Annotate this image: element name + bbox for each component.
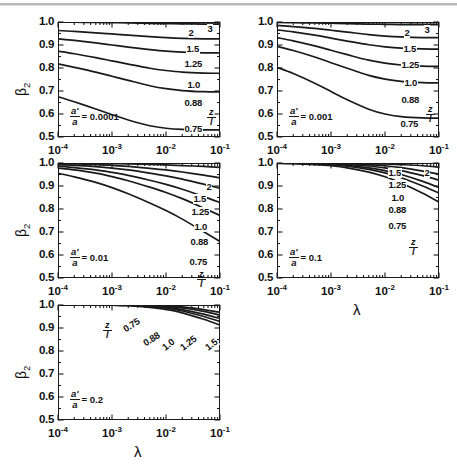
- x-tick-label: 10-1: [423, 284, 455, 297]
- y-tick-label: 0.8: [241, 203, 273, 215]
- y-tick-label: 0.6: [22, 391, 54, 403]
- y-tick-label: 0.5: [22, 131, 54, 143]
- curve-label-1p25: 1.25: [401, 60, 420, 70]
- y-tick-label: 1.0: [241, 16, 273, 28]
- curve-1p5: [277, 25, 439, 37]
- scan-artifact-line-secondary: [0, 5, 457, 6]
- z-over-l-label: zl: [103, 321, 112, 340]
- y-tick-label: 1.0: [22, 16, 54, 28]
- y-tick-label: 0.9: [241, 39, 273, 51]
- y-tick-label: 0.7: [241, 85, 273, 97]
- y-axis-title: β2: [14, 82, 31, 95]
- y-tick-label: 0.8: [22, 203, 54, 215]
- curve-1p5: [58, 31, 220, 39]
- curve-label-3: 3: [424, 25, 430, 35]
- x-axis-title: λ: [134, 444, 142, 459]
- x-tick-label: 10-1: [204, 284, 236, 297]
- curve-label-0p75: 0.75: [184, 124, 203, 134]
- y-tick-label: 0.5: [241, 272, 273, 284]
- curve-label-1p0: 1.0: [391, 193, 405, 203]
- x-tick-label: 10-2: [369, 284, 401, 297]
- y-tick-label: 0.5: [22, 414, 54, 426]
- y-tick-label: 1.0: [22, 299, 54, 311]
- x-tick-label: 10-4: [261, 143, 293, 156]
- curve-label-3: 3: [207, 24, 213, 34]
- curve-label-0p75: 0.75: [400, 119, 419, 129]
- x-tick-label: 10-1: [204, 426, 236, 439]
- y-axis-title: β2: [14, 365, 31, 378]
- curve-label-1p0: 1.0: [187, 80, 201, 90]
- param-fraction: a'a: [289, 106, 299, 127]
- y-axis-title: β2: [14, 223, 31, 236]
- curve-label-2: 2: [206, 182, 212, 192]
- curve-label-1p25: 1.25: [191, 207, 210, 217]
- curve-label-2: 2: [188, 28, 194, 38]
- curve-label-2: 2: [404, 28, 410, 38]
- y-tick-label: 0.9: [241, 180, 273, 192]
- x-tick-label: 10-3: [315, 143, 347, 156]
- param-fraction: a'a: [289, 247, 299, 268]
- y-tick-label: 0.5: [22, 272, 54, 284]
- curve-label-1p5: 1.5: [186, 44, 200, 54]
- curve-label-1p5: 1.5: [403, 44, 417, 54]
- y-tick-label: 0.8: [241, 62, 273, 74]
- y-tick-label: 0.8: [22, 345, 54, 357]
- x-tick-label: 10-3: [96, 426, 128, 439]
- y-tick-label: 1.0: [241, 157, 273, 169]
- curve-label-1p25: 1.25: [184, 59, 203, 69]
- param-fraction: a'a: [70, 389, 80, 410]
- x-tick-label: 10-2: [150, 284, 182, 297]
- y-tick-label: 0.6: [22, 108, 54, 120]
- param-value: = 0.001: [301, 112, 333, 122]
- x-tick-label: 10-4: [42, 284, 74, 297]
- z-over-l-label: zl: [409, 238, 418, 257]
- y-tick-label: 0.5: [241, 131, 273, 143]
- curve-label-0p75: 0.75: [189, 257, 208, 267]
- y-tick-label: 1.0: [22, 157, 54, 169]
- z-over-l-label: zl: [197, 270, 206, 289]
- x-tick-label: 10-3: [315, 284, 347, 297]
- y-tick-label: 0.6: [241, 108, 273, 120]
- y-tick-label: 0.6: [241, 249, 273, 261]
- y-tick-label: 0.7: [241, 226, 273, 238]
- curve-label-0p88: 0.88: [388, 205, 407, 215]
- curve-label-1p5: 1.5: [193, 194, 207, 204]
- curve-label-0p88: 0.88: [184, 98, 203, 108]
- panel-annotation: a'a = 0.1: [289, 247, 322, 268]
- param-value: = 0.1: [301, 253, 322, 263]
- param-value: = 0.0001: [82, 112, 119, 122]
- y-tick-label: 0.8: [22, 62, 54, 74]
- z-over-l-label: zl: [207, 108, 216, 127]
- param-fraction: a'a: [70, 106, 80, 127]
- panel-annotation: a'a = 0.0001: [70, 106, 119, 127]
- param-value: = 0.2: [82, 395, 103, 405]
- param-fraction: a'a: [70, 247, 80, 268]
- curve-label-0p75: 0.75: [388, 221, 407, 231]
- x-tick-label: 10-3: [96, 284, 128, 297]
- curve-1p0: [277, 163, 439, 188]
- curve-label-1p0: 1.0: [194, 222, 208, 232]
- y-tick-label: 0.9: [22, 180, 54, 192]
- curve-label-0p88: 0.88: [401, 95, 420, 105]
- panel-annotation: a'a = 0.2: [70, 389, 103, 410]
- curve-label-2: 2: [424, 168, 430, 178]
- y-tick-label: 0.9: [22, 322, 54, 334]
- x-tick-label: 10-1: [204, 143, 236, 156]
- x-tick-label: 10-4: [42, 426, 74, 439]
- param-value: = 0.01: [82, 253, 109, 263]
- curve-label-1p25: 1.25: [388, 180, 407, 190]
- x-axis-title: λ: [353, 302, 361, 317]
- x-tick-label: 10-3: [96, 143, 128, 156]
- z-over-l-label: zl: [426, 105, 435, 124]
- panel-annotation: a'a = 0.01: [70, 247, 108, 268]
- y-tick-label: 0.6: [22, 249, 54, 261]
- y-tick-label: 0.9: [22, 39, 54, 51]
- curve-label-0p88: 0.88: [190, 237, 209, 247]
- x-tick-label: 10-4: [261, 284, 293, 297]
- x-tick-label: 10-2: [150, 426, 182, 439]
- curve-label-1p5: 1.5: [388, 168, 402, 178]
- panel-annotation: a'a = 0.001: [289, 106, 333, 127]
- x-tick-label: 10-4: [42, 143, 74, 156]
- x-tick-label: 10-2: [369, 143, 401, 156]
- curve-label-1p0: 1.0: [404, 78, 418, 88]
